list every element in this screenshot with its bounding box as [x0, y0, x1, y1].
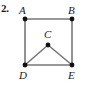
vertex-label-a: A [19, 5, 26, 16]
vertex-a [23, 17, 28, 22]
vertex-label-e: E [68, 70, 75, 81]
geometry-figure: 2. A B C D E [0, 0, 85, 88]
vertex-label-d: D [19, 70, 27, 81]
vertex-c [46, 43, 51, 48]
edge-layer [25, 19, 72, 65]
vertex-e [70, 63, 75, 68]
edge-d-c [25, 45, 48, 65]
edge-c-e [48, 45, 72, 65]
vertex-d [23, 63, 28, 68]
vertex-b [70, 17, 75, 22]
vertex-label-c: C [44, 29, 51, 40]
vertex-label-b: B [68, 5, 75, 16]
